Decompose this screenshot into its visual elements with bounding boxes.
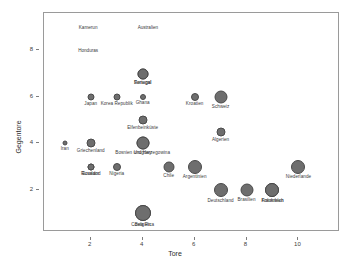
x-tick-label: 10 — [294, 241, 301, 247]
y-tick-label: 4 — [30, 139, 33, 145]
data-point-label: Griechenland — [77, 148, 105, 153]
data-point — [62, 141, 67, 146]
y-tick-label: 6 — [30, 93, 33, 99]
data-point-label: Korea Republik — [101, 101, 133, 106]
x-axis-label: Tore — [0, 250, 350, 257]
data-point — [214, 183, 228, 197]
data-point — [188, 160, 202, 174]
data-point — [86, 139, 95, 148]
data-point — [163, 161, 174, 172]
data-point — [136, 137, 149, 150]
y-tick-label: 8 — [30, 46, 33, 52]
y-tick-mark — [36, 49, 39, 50]
y-tick-mark — [36, 142, 39, 143]
y-tick-mark — [36, 189, 39, 190]
data-point-label: Senegal — [134, 80, 151, 85]
x-tick-mark — [90, 237, 91, 240]
data-point-label: Ghana — [136, 100, 150, 105]
data-point — [240, 184, 253, 197]
data-point-label: Australien — [138, 24, 158, 29]
data-point-label: Argentinien — [183, 174, 207, 179]
data-point — [214, 90, 227, 103]
data-point-label: Japan — [84, 101, 97, 106]
data-point-label: Kroatien — [186, 101, 204, 106]
x-tick-label: 2 — [88, 241, 91, 247]
data-point — [87, 163, 94, 170]
x-tick-label: 8 — [244, 241, 247, 247]
data-point-label: Chile — [163, 173, 174, 178]
x-tick-mark — [246, 237, 247, 240]
data-point-label: Belgien — [135, 222, 151, 227]
data-point — [291, 160, 305, 174]
data-point-label: Elfenbeinküste — [127, 125, 158, 130]
data-point-label: Schweiz — [212, 104, 229, 109]
data-point-label: Algerien — [212, 137, 229, 142]
data-point-label: Niederlande — [286, 174, 311, 179]
data-point — [138, 116, 147, 125]
data-point — [191, 93, 199, 101]
data-point-label: Honduras — [78, 48, 98, 53]
data-point — [265, 183, 279, 197]
data-point-label: Kolumbien — [261, 198, 283, 203]
data-point-label: Ecuador — [82, 171, 99, 176]
data-point — [113, 163, 121, 171]
data-point — [140, 94, 146, 100]
data-point-label: Deutschland — [208, 198, 234, 203]
y-axis-label: Gegentore — [15, 120, 22, 153]
x-tick-mark — [297, 237, 298, 240]
data-point — [216, 127, 225, 136]
data-point-label: Brasilien — [237, 197, 255, 202]
data-point-label: Iran — [61, 146, 69, 151]
data-point — [137, 68, 148, 79]
data-point-label: Nigeria — [109, 171, 124, 176]
y-tick-label: 2 — [30, 186, 33, 192]
data-point — [87, 93, 94, 100]
bubble-chart: PortugalSenegalJapanKorea RepublikGhanaK… — [0, 0, 350, 273]
data-point-label: Kamerun — [79, 24, 98, 29]
y-tick-mark — [36, 96, 39, 97]
data-point — [113, 93, 120, 100]
x-tick-mark — [142, 237, 143, 240]
x-tick-label: 4 — [140, 241, 143, 247]
plot-area: PortugalSenegalJapanKorea RepublikGhanaK… — [44, 13, 338, 230]
data-point-label: Uruguay — [134, 150, 152, 155]
x-tick-mark — [194, 237, 195, 240]
plot-frame: PortugalSenegalJapanKorea RepublikGhanaK… — [43, 12, 339, 231]
data-point — [135, 205, 151, 221]
x-tick-label: 6 — [192, 241, 195, 247]
